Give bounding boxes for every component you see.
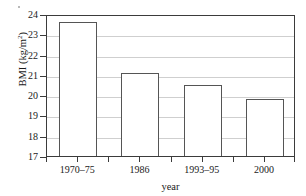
bmi-bar-chart: 2423222120191817 BMI (kg/m2) 1970–751986…: [0, 0, 306, 196]
y-tick-label: 17: [0, 152, 38, 162]
x-tick-mark: [233, 157, 234, 162]
y-tick-label: 18: [0, 132, 38, 142]
bar: [246, 99, 284, 156]
x-tick-mark-center: [264, 157, 265, 162]
x-tick-mark: [171, 157, 172, 162]
x-axis: 1970–7519861993–952000 year: [46, 157, 295, 196]
plot-area: [46, 15, 295, 157]
x-tick-mark: [108, 157, 109, 162]
x-tick-label: 2000: [254, 164, 274, 175]
y-axis-label-suffix: ): [17, 32, 28, 36]
y-axis: 2423222120191817 BMI (kg/m2): [0, 15, 46, 157]
x-axis-label: year: [46, 181, 295, 192]
x-tick-label: 1993–95: [184, 164, 219, 175]
y-axis-label: BMI (kg/m2): [16, 0, 29, 129]
x-tick-mark-center: [77, 157, 78, 162]
y-axis-label-text: BMI (kg/m: [17, 39, 28, 87]
bar: [121, 73, 159, 156]
x-tick-label: 1986: [129, 164, 149, 175]
x-tick-mark: [46, 157, 47, 162]
x-tick-label: 1970–75: [60, 164, 95, 175]
y-axis-label-superscript: 2: [16, 35, 24, 39]
bar: [184, 85, 222, 156]
x-tick-mark: [294, 157, 295, 162]
bar: [59, 22, 97, 156]
x-tick-mark-center: [139, 157, 140, 162]
x-tick-mark-center: [202, 157, 203, 162]
